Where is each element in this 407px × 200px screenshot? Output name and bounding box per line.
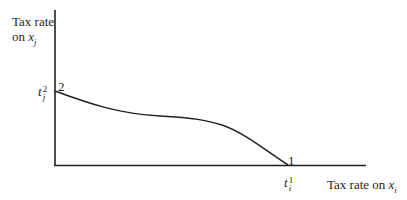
y-axis-label-line2: on xj — [12, 29, 54, 44]
x-axis-label: Tax rate on xi — [327, 177, 397, 192]
y-axis-label: Tax rate on xj — [12, 14, 54, 44]
reaction-curve — [55, 91, 288, 165]
x-intercept-label: t1i — [284, 175, 293, 192]
diagram-canvas — [0, 0, 407, 200]
y-axis-label-line1: Tax rate — [12, 14, 54, 29]
y-intercept-label: t2j — [38, 84, 47, 101]
point-1-label: 1 — [288, 153, 295, 168]
point-2-label: 2 — [58, 79, 65, 94]
